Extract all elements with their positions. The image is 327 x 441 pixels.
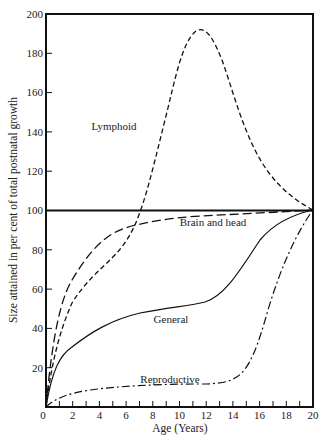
y-axis-label: Size attained in per cent of total postn… <box>7 97 20 323</box>
x-tick-label: 20 <box>308 409 320 421</box>
y-tick-label: 200 <box>27 8 44 20</box>
growth-chart: 200 180 160 140 120 100 80 60 40 20 0 2 … <box>0 0 327 441</box>
x-tick-label: 10 <box>174 409 186 421</box>
y-tick-label: 180 <box>27 47 44 59</box>
x-tick-label: 6 <box>123 409 129 421</box>
y-tick-label: 100 <box>27 204 44 216</box>
brain-and-head-annotation: Brain and head <box>180 216 247 228</box>
y-tick-label: 60 <box>32 283 44 295</box>
y-tick-label: 80 <box>32 244 44 256</box>
general-annotation: General <box>154 313 189 325</box>
x-tick-label: 8 <box>150 409 156 421</box>
x-tick-label: 12 <box>201 409 212 421</box>
x-tick-label: 16 <box>254 409 266 421</box>
lymphoid-annotation: Lymphoid <box>91 120 137 132</box>
x-axis-label: Age (Years) <box>152 422 208 435</box>
x-tick-label: 2 <box>70 409 76 421</box>
x-tick-label: 4 <box>97 409 103 421</box>
y-tick-label: 20 <box>32 362 44 374</box>
x-tick-label: 14 <box>227 409 239 421</box>
reproductive-annotation: Reproductive <box>140 373 199 385</box>
x-tick-label: 0 <box>40 409 46 421</box>
y-tick-label: 140 <box>27 126 44 138</box>
x-tick-label: 18 <box>281 409 293 421</box>
y-tick-label: 120 <box>27 165 44 177</box>
y-tick-label: 40 <box>32 322 44 334</box>
y-tick-label: 160 <box>27 86 44 98</box>
